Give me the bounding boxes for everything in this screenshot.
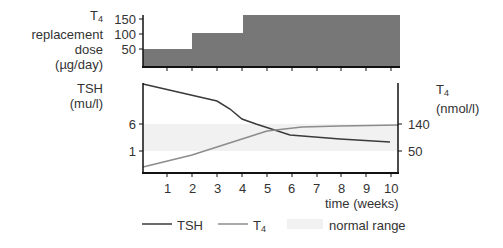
- chart-canvas: [0, 0, 503, 248]
- xtick-1: 1: [164, 181, 171, 196]
- xtick-5: 5: [264, 181, 271, 196]
- xtick-2: 2: [189, 181, 196, 196]
- xtick-6: 6: [288, 181, 295, 196]
- xtick-8: 8: [338, 181, 345, 196]
- xtick-4: 4: [239, 181, 246, 196]
- legend-t4-text: T: [253, 218, 261, 233]
- legend-t4-label: T4: [253, 218, 266, 237]
- xtick-3: 3: [214, 181, 221, 196]
- legend-t4-sub: 4: [261, 224, 266, 234]
- legend-normal-label: normal range: [329, 218, 406, 233]
- legend-normal-swatch: [287, 219, 323, 229]
- xtick-7: 7: [313, 181, 320, 196]
- legend-tsh-label: TSH: [177, 218, 203, 233]
- dose-step-area: [143, 15, 400, 67]
- xtick-10: 10: [384, 181, 398, 196]
- x-axis-label: time (weeks): [325, 196, 399, 211]
- xtick-9: 9: [363, 181, 370, 196]
